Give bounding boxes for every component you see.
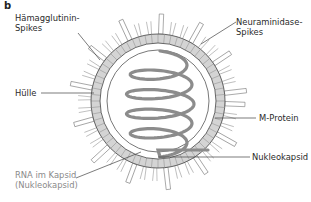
nukleokapsid-label: Nukleokapsid <box>252 152 308 162</box>
neuraminidase-spikes-label: Neuraminidase- Spikes <box>236 17 302 37</box>
m-protein-label: M-Protein <box>259 113 299 123</box>
rna-im-kapsid-label: RNA im Kapsid (Nukleokapsid) <box>15 170 78 190</box>
panel-letter: b <box>4 0 11 11</box>
haemagglutinin-spikes-label: Hämagglutinin- Spikes <box>15 13 80 33</box>
huelle-label: Hülle <box>15 88 36 98</box>
